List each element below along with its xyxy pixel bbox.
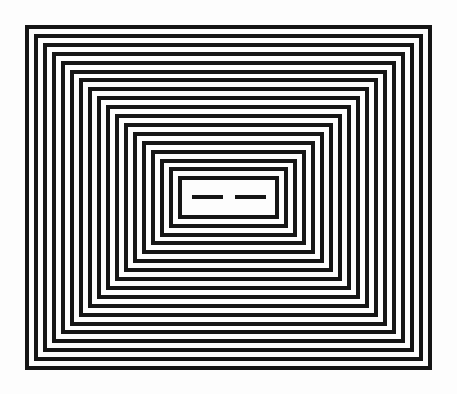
concentric-rectangles-figure	[0, 0, 457, 394]
center-bar-right	[235, 195, 266, 199]
center-bar-left	[192, 195, 223, 199]
